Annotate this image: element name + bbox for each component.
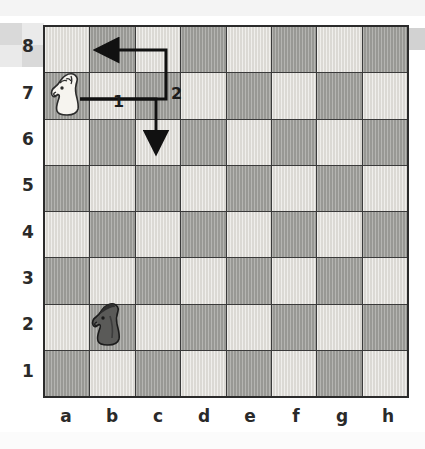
- square-e7[interactable]: [227, 73, 271, 118]
- square-b4[interactable]: [90, 212, 134, 257]
- file-label-c: c: [146, 408, 170, 425]
- square-d3[interactable]: [181, 258, 225, 303]
- square-h1[interactable]: [363, 351, 407, 396]
- square-e5[interactable]: [227, 166, 271, 211]
- square-g1[interactable]: [317, 351, 361, 396]
- file-label-d: d: [192, 408, 216, 425]
- square-f2[interactable]: [272, 305, 316, 350]
- rank-label-5: 5: [18, 177, 38, 194]
- square-c3[interactable]: [136, 258, 180, 303]
- square-h5[interactable]: [363, 166, 407, 211]
- rank-label-7: 7: [18, 85, 38, 102]
- square-g5[interactable]: [317, 166, 361, 211]
- watermark-band-bottom: [0, 432, 425, 449]
- square-a3[interactable]: [45, 258, 89, 303]
- square-a4[interactable]: [45, 212, 89, 257]
- square-c5[interactable]: [136, 166, 180, 211]
- square-e4[interactable]: [227, 212, 271, 257]
- square-f6[interactable]: [272, 120, 316, 165]
- square-c6[interactable]: [136, 120, 180, 165]
- square-d1[interactable]: [181, 351, 225, 396]
- square-h7[interactable]: [363, 73, 407, 118]
- square-d8[interactable]: [181, 27, 225, 72]
- square-e1[interactable]: [227, 351, 271, 396]
- square-d6[interactable]: [181, 120, 225, 165]
- chessboard-grid: [43, 25, 409, 398]
- file-label-a: a: [54, 408, 78, 425]
- rank-label-2: 2: [18, 316, 38, 333]
- square-h6[interactable]: [363, 120, 407, 165]
- square-f8[interactable]: [272, 27, 316, 72]
- square-f4[interactable]: [272, 212, 316, 257]
- rank-label-3: 3: [18, 270, 38, 287]
- square-b1[interactable]: [90, 351, 134, 396]
- square-c2[interactable]: [136, 305, 180, 350]
- rank-label-1: 1: [18, 363, 38, 380]
- square-a5[interactable]: [45, 166, 89, 211]
- square-d4[interactable]: [181, 212, 225, 257]
- file-label-g: g: [330, 408, 354, 425]
- square-e3[interactable]: [227, 258, 271, 303]
- square-d5[interactable]: [181, 166, 225, 211]
- square-h4[interactable]: [363, 212, 407, 257]
- square-a6[interactable]: [45, 120, 89, 165]
- square-f7[interactable]: [272, 73, 316, 118]
- rank-label-4: 4: [18, 224, 38, 241]
- square-d7[interactable]: [181, 73, 225, 118]
- square-b3[interactable]: [90, 258, 134, 303]
- square-g6[interactable]: [317, 120, 361, 165]
- square-e8[interactable]: [227, 27, 271, 72]
- square-a1[interactable]: [45, 351, 89, 396]
- file-label-b: b: [100, 408, 124, 425]
- move-number-1: 1: [113, 94, 124, 110]
- rank-label-6: 6: [18, 131, 38, 148]
- square-a8[interactable]: [45, 27, 89, 72]
- square-h3[interactable]: [363, 258, 407, 303]
- watermark-band-right: [409, 28, 425, 50]
- watermark-band-top: [0, 0, 425, 16]
- square-e2[interactable]: [227, 305, 271, 350]
- square-h2[interactable]: [363, 305, 407, 350]
- square-g8[interactable]: [317, 27, 361, 72]
- square-b8[interactable]: [90, 27, 134, 72]
- square-g3[interactable]: [317, 258, 361, 303]
- square-h8[interactable]: [363, 27, 407, 72]
- square-c1[interactable]: [136, 351, 180, 396]
- square-a7[interactable]: [45, 73, 89, 118]
- rank-label-8: 8: [18, 38, 38, 55]
- file-label-h: h: [376, 408, 400, 425]
- square-b2[interactable]: [90, 305, 134, 350]
- square-c4[interactable]: [136, 212, 180, 257]
- square-g7[interactable]: [317, 73, 361, 118]
- file-label-f: f: [284, 408, 308, 425]
- square-c8[interactable]: [136, 27, 180, 72]
- move-number-2: 2: [171, 86, 182, 102]
- square-g2[interactable]: [317, 305, 361, 350]
- square-e6[interactable]: [227, 120, 271, 165]
- square-a2[interactable]: [45, 305, 89, 350]
- square-d2[interactable]: [181, 305, 225, 350]
- square-f5[interactable]: [272, 166, 316, 211]
- file-label-e: e: [238, 408, 262, 425]
- square-g4[interactable]: [317, 212, 361, 257]
- square-b6[interactable]: [90, 120, 134, 165]
- square-f1[interactable]: [272, 351, 316, 396]
- square-b5[interactable]: [90, 166, 134, 211]
- chessboard[interactable]: [43, 25, 409, 398]
- square-f3[interactable]: [272, 258, 316, 303]
